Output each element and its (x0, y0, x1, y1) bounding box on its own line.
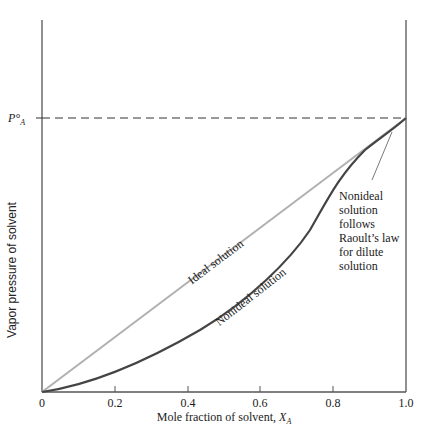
x-tick-label: 0.4 (181, 396, 196, 410)
chart: 0 0.2 0.4 0.6 0.8 1.0 Mole fraction of s… (0, 0, 427, 427)
svg-text:for dilute: for dilute (339, 245, 383, 259)
x-axis-label: Mole fraction of solvent, XA (157, 410, 292, 426)
svg-text:follows: follows (339, 217, 375, 231)
x-ticks (115, 386, 333, 392)
svg-text:Raoult’s law: Raoult’s law (339, 231, 400, 245)
p0a-label: P°A (7, 111, 25, 127)
x-tick-label: 0 (39, 396, 45, 410)
ideal-solution-label: Ideal solution (185, 236, 246, 287)
x-tick-label: 0.8 (326, 396, 341, 410)
y-axis-label: Vapor pressure of solvent (5, 201, 19, 338)
x-tick-label: 1.0 (399, 396, 414, 410)
svg-text:Nonideal: Nonideal (339, 189, 384, 203)
dilute-note: Nonideal solution follows Raoult’s law f… (339, 189, 400, 273)
svg-text:solution: solution (339, 259, 378, 273)
x-tick-label: 0.2 (108, 396, 123, 410)
annotation-leader-line (372, 132, 392, 180)
nonideal-solution-label: Nonideal solution (212, 265, 288, 329)
svg-text:solution: solution (339, 203, 378, 217)
x-tick-label: 0.6 (253, 396, 268, 410)
